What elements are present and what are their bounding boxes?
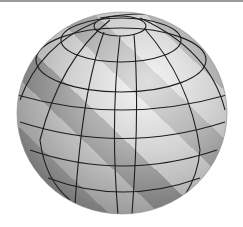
sphere-graphic [0, 0, 243, 227]
